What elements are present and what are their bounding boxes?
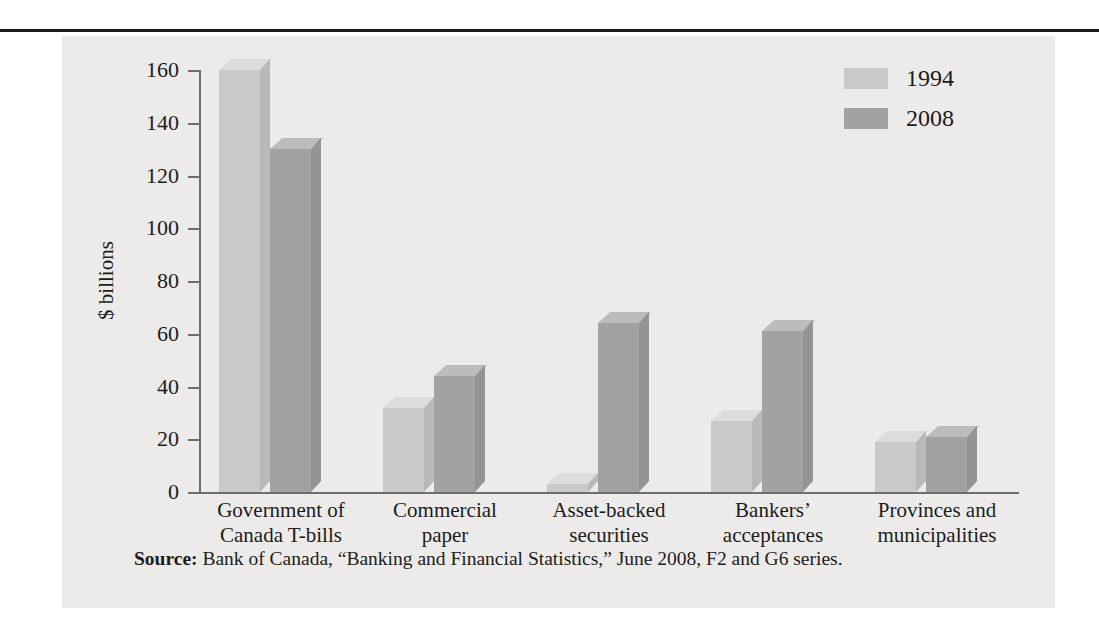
bar-side-face	[639, 312, 649, 492]
bar-side-face	[803, 320, 813, 492]
top-divider-rule	[0, 29, 1099, 32]
category-label-4: Provinces andmunicipalities	[827, 498, 1047, 548]
legend-item-1994: 1994	[844, 66, 1024, 90]
chart-legend: 19942008	[844, 66, 1024, 146]
legend-label-1994: 1994	[906, 66, 954, 90]
y-axis-title: $ billions	[94, 201, 119, 361]
bar-side-face	[475, 365, 485, 492]
source-note-label: Source:	[134, 548, 198, 569]
category-label-line: municipalities	[827, 523, 1047, 548]
y-tick-mark	[188, 387, 199, 389]
bar-front-face	[598, 323, 639, 492]
y-tick-label: 60	[123, 323, 179, 345]
bar-front-face	[219, 70, 260, 492]
bar-1994-1	[383, 408, 424, 492]
y-tick-label: 20	[123, 428, 179, 450]
legend-item-2008: 2008	[844, 106, 1024, 130]
y-tick-mark	[188, 281, 199, 283]
y-tick-label: 140	[123, 112, 179, 134]
bar-front-face	[547, 484, 588, 492]
bar-1994-0	[219, 70, 260, 492]
figure-page: 020406080100120140160 $ billions Governm…	[0, 0, 1099, 640]
category-label-line: Provinces and	[827, 498, 1047, 523]
bar-front-face	[926, 437, 967, 492]
legend-swatch-1994	[844, 68, 888, 89]
bar-2008-0	[270, 149, 311, 492]
y-tick-label: 160	[123, 59, 179, 81]
y-tick-label: 120	[123, 165, 179, 187]
y-tick-mark	[188, 334, 199, 336]
chart-panel: 020406080100120140160 $ billions Governm…	[62, 36, 1055, 608]
y-tick-mark	[188, 176, 199, 178]
bar-front-face	[762, 331, 803, 492]
bar-2008-3	[762, 331, 803, 492]
bar-2008-4	[926, 437, 967, 492]
y-axis-line	[199, 70, 201, 494]
bar-front-face	[434, 376, 475, 492]
bar-front-face	[270, 149, 311, 492]
bar-1994-2	[547, 484, 588, 492]
y-tick-label: 100	[123, 217, 179, 239]
bar-side-face	[967, 426, 977, 492]
y-tick-mark	[188, 439, 199, 441]
y-tick-mark	[188, 492, 199, 494]
bar-side-face	[311, 138, 321, 492]
bar-side-face	[916, 431, 926, 492]
bar-1994-3	[711, 421, 752, 492]
y-tick-mark	[188, 123, 199, 125]
y-tick-label: 80	[123, 270, 179, 292]
y-tick-mark	[188, 70, 199, 72]
legend-label-2008: 2008	[906, 106, 954, 130]
bar-front-face	[711, 421, 752, 492]
bar-side-face	[424, 397, 434, 492]
source-note: Source: Bank of Canada, “Banking and Fin…	[134, 548, 843, 570]
bar-front-face	[383, 408, 424, 492]
bar-2008-2	[598, 323, 639, 492]
bar-front-face	[875, 442, 916, 492]
bar-2008-1	[434, 376, 475, 492]
source-note-text: Bank of Canada, “Banking and Financial S…	[202, 548, 842, 569]
y-tick-mark	[188, 228, 199, 230]
y-tick-label: 40	[123, 376, 179, 398]
legend-swatch-2008	[844, 108, 888, 129]
bar-side-face	[752, 410, 762, 492]
x-axis-line	[199, 492, 1019, 494]
bar-side-face	[260, 59, 270, 492]
bar-1994-4	[875, 442, 916, 492]
